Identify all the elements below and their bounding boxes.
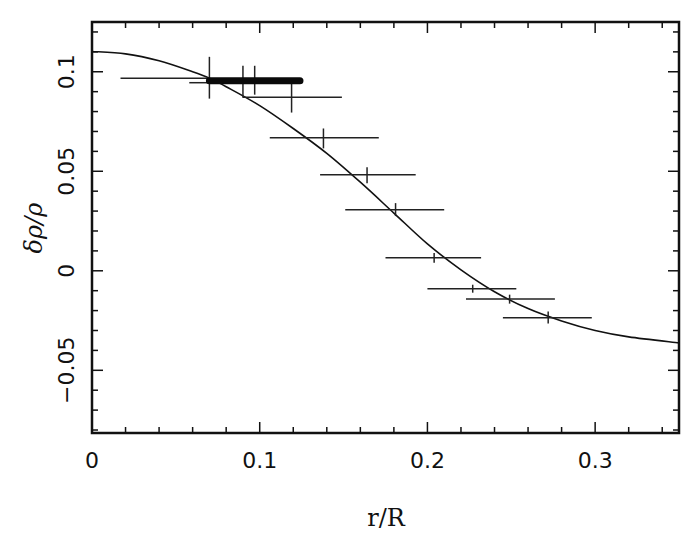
x-axis-title: r/R [367, 504, 406, 532]
y-axis-title: δρ/ρ [20, 203, 48, 254]
chart: 00.10.20.3−0.0500.050.1 r/R δρ/ρ [0, 0, 700, 537]
data-point [270, 128, 379, 148]
y-tick-label: 0 [54, 264, 79, 278]
x-tick-label: 0.3 [578, 448, 613, 473]
data-point [503, 312, 592, 324]
data-point [386, 253, 482, 263]
model-curve-line [92, 51, 679, 342]
data-point [243, 83, 342, 113]
data-point [466, 295, 555, 304]
y-tick-label: 0.05 [54, 147, 79, 196]
model-curve [92, 51, 679, 342]
x-tick-label: 0.2 [410, 448, 445, 473]
data-points [121, 57, 592, 324]
y-tick-label: 0.1 [54, 54, 79, 89]
tick-labels: 00.10.20.3−0.0500.050.1 [54, 54, 613, 473]
y-tick-label: −0.05 [54, 337, 79, 404]
data-point [427, 285, 516, 293]
x-tick-label: 0.1 [242, 448, 277, 473]
plot-border [92, 22, 679, 433]
axis-ticks [92, 22, 679, 433]
data-point [320, 167, 416, 183]
plot-frame [92, 22, 679, 433]
x-tick-label: 0 [85, 448, 99, 473]
